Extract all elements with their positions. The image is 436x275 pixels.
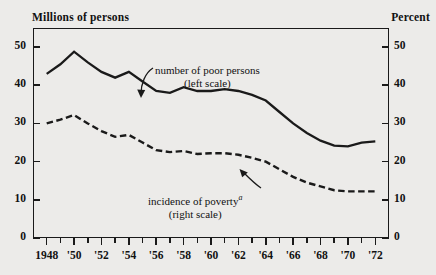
x-axis-tick-major-1968 bbox=[320, 238, 322, 245]
x-axis-tick-minor-1951 bbox=[87, 238, 89, 243]
x-axis-tick-minor-1967 bbox=[306, 238, 308, 243]
x-axis-label-1972: '72 bbox=[368, 249, 383, 261]
y-axis-tick-left-0 bbox=[33, 237, 40, 239]
annotation-incidence-of-poverty: incidence of povertya (right scale) bbox=[148, 191, 242, 221]
x-axis-label-1960: '60 bbox=[204, 249, 219, 261]
x-axis-tick-minor-1961 bbox=[224, 238, 226, 243]
y-axis-tick-left-50 bbox=[33, 46, 40, 48]
x-axis-label-1962: '62 bbox=[231, 249, 246, 261]
x-axis-tick-minor-1953 bbox=[114, 238, 116, 243]
y-axis-label-right-50: 50 bbox=[394, 39, 416, 51]
y-axis-tick-left-40 bbox=[33, 84, 40, 86]
x-axis-tick-minor-1955 bbox=[142, 238, 144, 243]
y-axis-label-right-20: 20 bbox=[394, 154, 416, 166]
annotation-incidence-line1: incidence of poverty bbox=[148, 195, 238, 207]
x-axis-tick-major-1964 bbox=[265, 238, 267, 245]
x-axis-tick-minor-1971 bbox=[361, 238, 363, 243]
x-axis-tick-minor-1963 bbox=[251, 238, 253, 243]
x-axis-label-1964: '64 bbox=[258, 249, 273, 261]
x-axis-label-1966: '66 bbox=[286, 249, 301, 261]
x-axis-tick-major-1962 bbox=[238, 238, 240, 245]
x-axis-tick-major-1956 bbox=[155, 238, 157, 245]
y-axis-label-left-10: 10 bbox=[6, 192, 26, 204]
x-axis-tick-minor-1965 bbox=[279, 238, 281, 243]
x-axis-tick-minor-1969 bbox=[333, 238, 335, 243]
x-axis-tick-minor-1959 bbox=[197, 238, 199, 243]
x-axis-tick-major-1952 bbox=[101, 238, 103, 245]
y-axis-tick-left-30 bbox=[33, 123, 40, 125]
y-axis-tick-left-20 bbox=[33, 161, 40, 163]
y-axis-label-left-40: 40 bbox=[6, 77, 26, 89]
annotation-poor-line1: number of poor persons bbox=[155, 64, 260, 76]
x-axis-label-1950: '50 bbox=[67, 249, 82, 261]
x-axis-label-1956: '56 bbox=[149, 249, 164, 261]
annotation-incidence-line2: (right scale) bbox=[169, 208, 222, 220]
x-axis-label-1948: 1948 bbox=[35, 249, 58, 261]
x-axis-tick-major-1960 bbox=[210, 238, 212, 245]
x-axis-tick-major-1954 bbox=[128, 238, 130, 245]
x-axis-tick-major-1958 bbox=[183, 238, 185, 245]
y-axis-tick-right-0 bbox=[382, 237, 389, 239]
footnote-marker-a: a bbox=[238, 193, 242, 202]
y-axis-tick-right-40 bbox=[382, 84, 389, 86]
y-axis-label-right-40: 40 bbox=[394, 77, 416, 89]
x-axis-label-1954: '54 bbox=[121, 249, 136, 261]
left-axis-title: Millions of persons bbox=[32, 11, 129, 23]
y-axis-label-right-0: 0 bbox=[394, 230, 416, 242]
y-axis-label-left-50: 50 bbox=[6, 39, 26, 51]
right-axis-title: Percent bbox=[391, 11, 430, 23]
x-axis-label-1968: '68 bbox=[313, 249, 328, 261]
x-axis-label-1958: '58 bbox=[176, 249, 191, 261]
x-axis-label-1970: '70 bbox=[341, 249, 356, 261]
y-axis-tick-left-10 bbox=[33, 199, 40, 201]
x-axis-tick-major-1950 bbox=[73, 238, 75, 245]
y-axis-tick-right-50 bbox=[382, 46, 389, 48]
x-axis-tick-major-1972 bbox=[375, 238, 377, 245]
annotation-poor-line2: (left scale) bbox=[184, 77, 231, 89]
x-axis-tick-minor-1957 bbox=[169, 238, 171, 243]
leader-line-incidence bbox=[243, 172, 261, 188]
y-axis-tick-right-10 bbox=[382, 199, 389, 201]
x-axis-tick-minor-1949 bbox=[60, 238, 62, 243]
y-axis-label-left-20: 20 bbox=[6, 154, 26, 166]
y-axis-label-left-30: 30 bbox=[6, 115, 26, 127]
y-axis-label-right-10: 10 bbox=[394, 192, 416, 204]
y-axis-tick-right-30 bbox=[382, 123, 389, 125]
leader-arrow-poor-persons bbox=[137, 90, 145, 99]
annotation-number-of-poor-persons: number of poor persons (left scale) bbox=[155, 64, 260, 90]
y-axis-label-left-0: 0 bbox=[6, 230, 26, 242]
y-axis-tick-right-20 bbox=[382, 161, 389, 163]
x-axis-tick-major-1966 bbox=[292, 238, 294, 245]
x-axis-label-1952: '52 bbox=[94, 249, 109, 261]
y-axis-label-right-30: 30 bbox=[394, 115, 416, 127]
series-line-incidence-of-poverty bbox=[47, 115, 376, 191]
x-axis-tick-major-1948 bbox=[46, 238, 48, 245]
poverty-chart-figure: Millions of persons Percent 010203040500… bbox=[0, 0, 436, 275]
x-axis-tick-major-1970 bbox=[347, 238, 349, 245]
